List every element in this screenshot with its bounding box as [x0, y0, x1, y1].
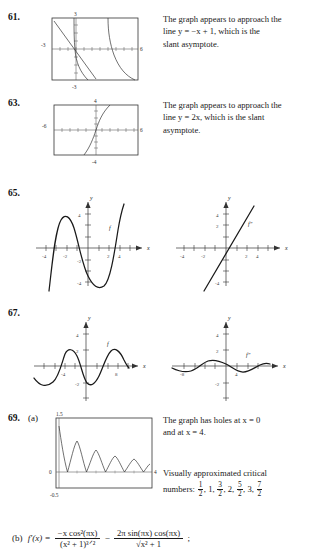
graph-65-right-x-axis-label: x — [284, 245, 288, 251]
derivative-term-1-numerator: −x cos²(πx) — [55, 528, 101, 538]
graph-61: -3 6 3 -3 — [40, 10, 150, 95]
answer-key-page: 61. — [0, 0, 316, 559]
graph-65-left-x-axis-label: x — [146, 245, 150, 251]
critical-number-5: 5 2 — [237, 481, 243, 497]
graph-61-ylabel-max: 3 — [74, 11, 77, 17]
graph-69a-ylabel-max: 1.5 — [56, 411, 63, 417]
derivative-term-2-numerator: 2π sin(πx) cos(πx) — [114, 528, 183, 538]
graph-65-left-xtick-2: -2 — [63, 254, 68, 259]
derivative-lhs: f′(x) = — [28, 533, 51, 543]
answer-69-line-1: The graph has holes at x = 0 — [163, 414, 315, 426]
derivative-term-2: 2π sin(πx) cos(πx) √x² + 1 — [114, 528, 183, 549]
answer-61-line-2: line y = −x + 1, which is the — [163, 25, 313, 37]
graph-65-right-xtick-3: 2 — [245, 254, 248, 259]
answer-text-69: The graph has holes at x = 0 and at x = … — [163, 414, 315, 439]
graph-65-right-ytick-4: -4 — [215, 281, 220, 286]
graph-63: -6 6 4 -4 — [40, 97, 152, 169]
graph-67-right-ytick-3: -2 — [215, 382, 220, 387]
problem-number-61: 61. — [8, 12, 20, 22]
answer-text-63: The graph appears to approach the line y… — [163, 99, 313, 136]
graph-67-right-ytick-1: 4 — [216, 333, 219, 338]
graph-65-left-y-axis-label: y — [89, 195, 93, 201]
graph-63-ylabel-max: 4 — [94, 98, 97, 104]
graph-65-left-ytick-4: -4 — [77, 281, 82, 286]
graph-67-right-xtick-1: -8 — [180, 372, 185, 377]
critical-number-1: 1 2 — [198, 481, 204, 497]
problem-69-part-a-label: (a) — [28, 413, 38, 423]
graph-67-right: x y -8 4 4 2 -2 — [172, 306, 304, 406]
graph-63-xlabel-min: -6 — [42, 123, 47, 129]
graph-61-ylabel-min: -3 — [72, 84, 77, 90]
graph-67-right-xtick-2: 4 — [235, 372, 238, 377]
derivative-term-2-denominator: √x² + 1 — [114, 538, 183, 549]
graph-67-left-y-axis-label: y — [87, 315, 91, 321]
answer-69-line-2: and at x = 4. — [163, 426, 315, 438]
graph-67-right-y-axis-label: y — [227, 315, 231, 321]
graph-69a-xlabel-min: 0 — [49, 469, 52, 475]
graph-67-right-x-axis-label: x — [282, 363, 286, 369]
graph-67-left-ytick-3: -2 — [75, 382, 80, 387]
answer-61-line-3: slant asymptote. — [163, 38, 313, 50]
critical-numbers-intro: Visually approximated critical — [163, 467, 315, 479]
derivative-equation-69b: (b) f′(x) = −x cos²(πx) (x² + 1)³ᐟ² − 2π… — [12, 528, 190, 549]
graph-65-right-y-axis-label: y — [227, 195, 231, 201]
graph-61-xlabel-min: -3 — [41, 42, 46, 48]
graph-65-right-xtick-2: -2 — [201, 254, 206, 259]
critical-numbers-block: Visually approximated critical numbers: … — [163, 467, 315, 498]
graph-65-left: x y — [32, 186, 162, 294]
graph-65-right: x y -4 -2 — [172, 186, 302, 294]
graph-67-left-xtick-1: -4 — [61, 372, 66, 377]
answer-63-line-2: line y = 2x, which is the slant — [163, 111, 313, 123]
problem-number-63: 63. — [8, 98, 20, 108]
derivative-trailing-semicolon: ; — [187, 533, 190, 543]
graph-69a: 1.5 0 4 -0.5 — [44, 412, 166, 504]
graph-65-right-ytick-2: 2 — [216, 224, 219, 229]
graph-65-left-ytick-3: -2 — [77, 259, 82, 264]
problem-number-65: 65. — [8, 188, 20, 198]
graph-67-left-x-axis-label: x — [142, 363, 146, 369]
graph-67-right-curve-label: f″ — [246, 352, 251, 358]
problem-number-67: 67. — [8, 308, 20, 318]
graph-65-left-curve-label: f — [109, 225, 112, 231]
critical-numbers-label: numbers: — [163, 485, 195, 495]
derivative-minus-sign: − — [105, 533, 110, 543]
graph-61-xlabel-max: 6 — [140, 46, 143, 52]
answer-text-61: The graph appears to approach the line y… — [163, 13, 313, 50]
graph-65-left-xtick-4: 4 — [118, 254, 121, 259]
problem-number-69: 69. — [8, 413, 20, 423]
answer-61-line-1: The graph appears to approach the — [163, 13, 313, 25]
graph-65-right-curve-label: f″ — [248, 221, 253, 227]
graph-67-left-xtick-2: 8 — [115, 372, 118, 377]
graph-67-right-ytick-2: 2 — [216, 349, 219, 354]
graph-65-left-xtick-3: 2 — [107, 254, 110, 259]
problem-69-part-b-label: (b) — [12, 533, 23, 543]
graph-65-left-xtick-1: -4 — [42, 254, 47, 259]
graph-65-right-ytick-1: 4 — [216, 213, 219, 218]
derivative-term-1-denominator: (x² + 1)³ᐟ² — [55, 538, 101, 549]
graph-67-left-ytick-2: 2 — [76, 349, 79, 354]
answer-63-line-1: The graph appears to approach the — [163, 99, 313, 111]
answer-63-line-3: asymptote. — [163, 124, 313, 136]
graph-67-left: x y -4 8 4 2 - — [32, 306, 162, 406]
graph-69a-ylabel-min: -0.5 — [50, 492, 59, 498]
graph-63-xlabel-max: 6 — [140, 127, 143, 133]
graph-65-right-xtick-4: 4 — [256, 254, 259, 259]
derivative-term-1: −x cos²(πx) (x² + 1)³ᐟ² — [55, 528, 101, 549]
graph-65-left-ytick-1: 4 — [78, 213, 81, 218]
graph-65-right-xtick-1: -4 — [180, 254, 185, 259]
graph-67-left-ytick-1: 4 — [76, 333, 79, 338]
critical-number-7: 7 2 — [257, 481, 263, 497]
graph-63-ylabel-min: -4 — [92, 159, 97, 165]
graph-69a-xlabel-max: 4 — [154, 469, 157, 475]
graph-67-left-curve-label: f — [107, 341, 110, 347]
